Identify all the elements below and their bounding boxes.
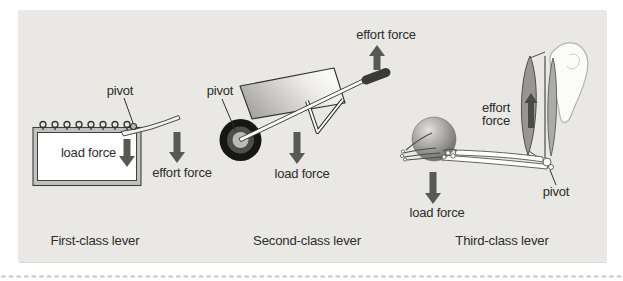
screenshot-root: pivot load force effort force First-clas… (0, 0, 623, 281)
diagram-caption: Third-class lever (455, 233, 549, 248)
pivot-label: pivot (543, 184, 570, 199)
pivot-label: pivot (107, 83, 134, 98)
load-force-label: load force (409, 205, 464, 220)
pivot-label: pivot (207, 83, 234, 98)
lever-diagram-figure: pivot load force effort force First-clas… (0, 0, 623, 281)
diagram-caption: First-class lever (51, 233, 141, 248)
effort-force-label: effort force (356, 27, 416, 42)
load-force-label: load force (61, 145, 116, 160)
load-force-label: load force (274, 166, 329, 181)
effort-force-label-line2: force (482, 113, 510, 128)
pivot-point (131, 124, 137, 130)
effort-force-label: effort force (152, 165, 212, 180)
elbow-joint (549, 165, 554, 170)
diagram-caption: Second-class lever (253, 233, 362, 248)
